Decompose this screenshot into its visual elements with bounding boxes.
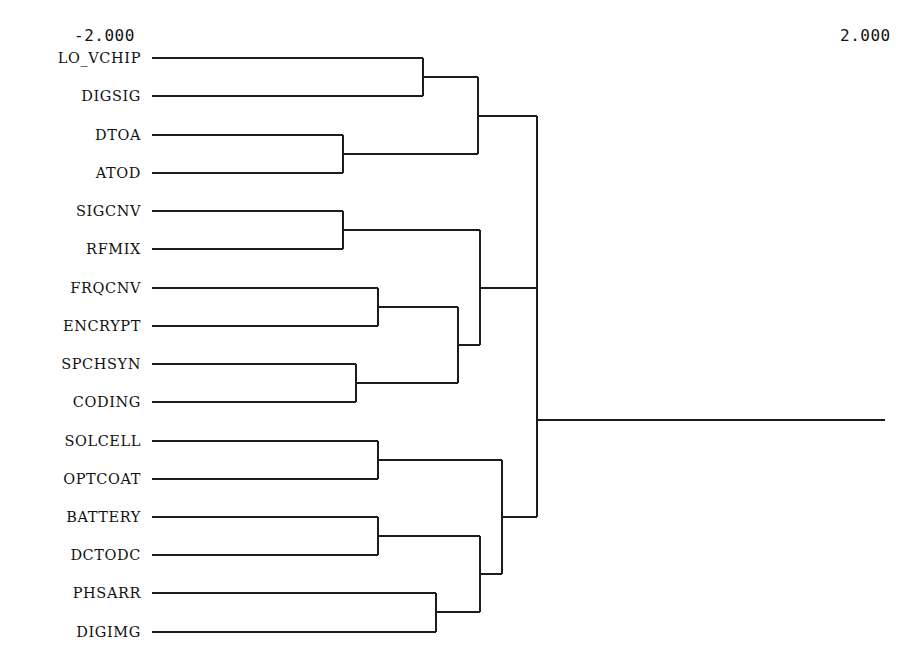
dendrogram-chart: -2.000 2.000 LO_VCHIPDIGSIGDTOAATODSIGCN… [0,0,915,661]
dendrogram-tree [0,0,915,661]
